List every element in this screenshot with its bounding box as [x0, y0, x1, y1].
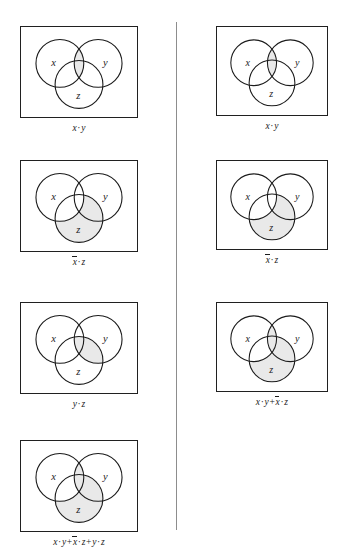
caption-variable: x: [73, 537, 77, 547]
venn-figure-sheet: xyzx·yxyzx·zxyzy·zxyzx·y+x·z+y·z xyzx·yx…: [0, 0, 353, 553]
set-label-x: x: [244, 191, 250, 202]
figure-left-sum-three: xyzx·y+x·z+y·z: [0, 440, 176, 547]
figure-caption: x·y+x·z: [216, 397, 328, 407]
venn-diagram: xyz: [22, 442, 136, 530]
figure-left-yz: xyzy·z: [0, 302, 176, 409]
universe-box: xyz: [216, 302, 328, 392]
set-label-x: x: [244, 333, 250, 344]
figure-right-notx-z: xyzx·z: [176, 160, 353, 265]
figure-caption: x·z: [20, 257, 138, 267]
universe-box: xyz: [20, 440, 138, 532]
universe-box: xyz: [20, 160, 138, 252]
figure-right-sum-two: xyzx·y+x·z: [176, 302, 353, 407]
set-label-x: x: [50, 471, 56, 482]
set-label-x: x: [244, 57, 250, 68]
venn-diagram: xyz: [22, 162, 136, 250]
caption-variable: x: [73, 257, 77, 267]
figure-caption: x·y: [20, 123, 138, 133]
figure-caption: x·z: [216, 255, 328, 265]
venn-diagram: xyz: [22, 304, 136, 392]
caption-variable: z: [81, 257, 85, 267]
set-label-x: x: [50, 333, 56, 344]
figure-caption: y·z: [20, 399, 138, 409]
set-label-z: z: [268, 88, 273, 99]
venn-diagram: xyz: [218, 304, 326, 390]
set-label-z: z: [268, 222, 273, 233]
caption-variable: z: [274, 255, 278, 265]
figure-right-xy: xyzx·y: [176, 26, 353, 131]
set-label-y: y: [294, 333, 300, 344]
caption-variable: x: [53, 537, 57, 547]
set-label-y: y: [294, 57, 300, 68]
set-label-y: y: [102, 333, 108, 344]
universe-box: xyz: [216, 160, 328, 250]
set-label-y: y: [102, 471, 108, 482]
venn-diagram: xyz: [218, 28, 326, 114]
shaded-region-x_and_y_and_z: [23, 304, 136, 392]
caption-variable: x: [276, 397, 280, 407]
caption-variable: y: [92, 537, 96, 547]
caption-variable: z: [284, 397, 288, 407]
caption-variable: y: [274, 121, 278, 131]
caption-variable: z: [81, 399, 85, 409]
universe-box: xyz: [20, 26, 138, 118]
set-label-y: y: [102, 57, 108, 68]
shaded-region-x_and_y_and_z: [23, 28, 136, 116]
universe-box: xyz: [216, 26, 328, 116]
figure-caption: x·y+x·z+y·z: [20, 537, 138, 547]
caption-variable: x: [266, 255, 270, 265]
venn-diagram: xyz: [218, 162, 326, 248]
set-label-y: y: [102, 191, 108, 202]
set-label-z: z: [75, 224, 80, 235]
set-label-x: x: [50, 57, 56, 68]
set-label-z: z: [75, 90, 80, 101]
figure-left-notx-z: xyzx·z: [0, 160, 176, 267]
set-label-z: z: [75, 366, 80, 377]
set-label-y: y: [294, 191, 300, 202]
shaded-region-x_and_y_and_z: [218, 29, 326, 113]
set-label-z: z: [268, 364, 273, 375]
set-label-x: x: [50, 191, 56, 202]
caption-variable: z: [101, 537, 105, 547]
universe-box: xyz: [20, 302, 138, 394]
caption-variable: y: [81, 123, 85, 133]
set-label-z: z: [75, 504, 80, 515]
figure-left-xy: xyzx·y: [0, 26, 176, 133]
venn-diagram: xyz: [22, 28, 136, 116]
figure-caption: x·y: [216, 121, 328, 131]
